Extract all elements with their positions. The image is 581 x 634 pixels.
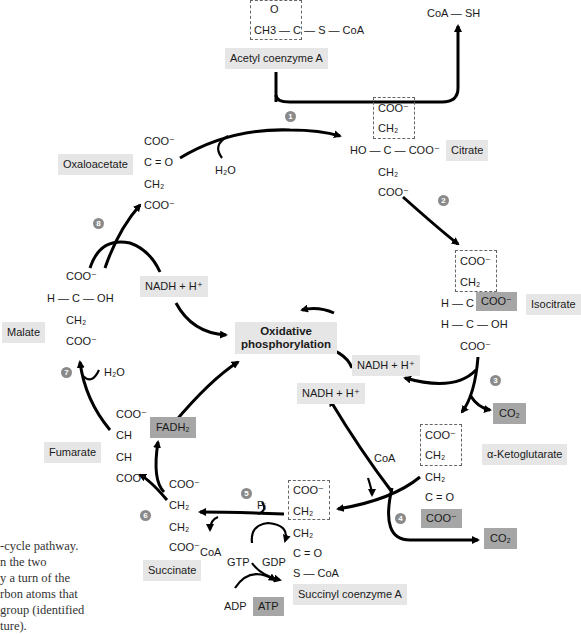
label-isocitrate: Isocitrate bbox=[526, 294, 581, 315]
label-alpha-ketoglutarate: α-Ketoglutarate bbox=[482, 444, 567, 465]
arrow-step1 bbox=[180, 130, 340, 158]
label-fumarate: Fumarate bbox=[44, 442, 101, 463]
arrow-h2o-malate bbox=[83, 370, 99, 379]
fumarate-line-2: CH bbox=[116, 429, 132, 442]
figure-caption: -cycle pathway. n the two y a turn of th… bbox=[0, 538, 84, 634]
succinate-line-2: CH₂ bbox=[169, 499, 189, 512]
arrow-step2 bbox=[403, 197, 458, 244]
akg-line-1: COO⁻ bbox=[425, 429, 456, 442]
akg-line-3: CH₂ bbox=[425, 471, 445, 484]
arrow-nadh-malate-ox bbox=[176, 303, 226, 335]
label-malate: Malate bbox=[2, 322, 45, 343]
label-citrate: Citrate bbox=[446, 140, 488, 161]
akg-line-4: C = O bbox=[425, 491, 454, 504]
succinyl-line-2: CH₂ bbox=[293, 505, 313, 518]
adp-label: ADP bbox=[224, 600, 247, 613]
succinate-line-4: COO⁻ bbox=[169, 541, 200, 554]
acetyl-coa-formula: CH3 — C — S — CoA bbox=[254, 24, 364, 37]
caption-line: n the two bbox=[0, 554, 84, 570]
acetyl-coa-oxygen: O bbox=[270, 3, 279, 16]
co2-isocitrate: CO₂ bbox=[493, 403, 526, 424]
gdp-label: GDP bbox=[262, 556, 286, 569]
label-succinyl-coa: Succinyl coenzyme A bbox=[293, 584, 407, 605]
isocitrate-line-5: H — C — OH bbox=[441, 318, 508, 331]
nadh-malate: NADH + H⁺ bbox=[140, 276, 208, 297]
caption-line: ture). bbox=[0, 618, 84, 634]
gtp-label: GTP bbox=[227, 556, 250, 569]
succinyl-line-3: CH₂ bbox=[293, 527, 313, 540]
arrow-gtp-gdp bbox=[252, 523, 286, 543]
step-3-marker: 3 bbox=[490, 375, 501, 386]
succinate-line-3: CH₂ bbox=[169, 521, 189, 534]
nadh-akg: NADH + H⁺ bbox=[297, 383, 365, 404]
oxaloacetate-line-3: CH₂ bbox=[144, 178, 164, 191]
oxidative-phosphorylation: Oxidative phosphorylation bbox=[235, 322, 337, 354]
step-6-marker: 6 bbox=[140, 510, 151, 521]
malate-line-4: COO⁻ bbox=[66, 335, 97, 348]
fumarate-line-3: CH bbox=[116, 451, 132, 464]
oxphos-line-2: phosphorylation bbox=[241, 338, 331, 351]
arrow-co2-iso bbox=[470, 395, 490, 410]
isocitrate-line-1: COO⁻ bbox=[460, 255, 491, 268]
malate-line-2: H — C — OH bbox=[47, 292, 114, 305]
step-2-marker: 2 bbox=[438, 195, 449, 206]
caption-line: rbon atoms that bbox=[0, 586, 84, 602]
step-8-marker: 8 bbox=[93, 218, 104, 229]
succinate-line-1: COO⁻ bbox=[169, 478, 200, 491]
arrow-nadh-iso-up bbox=[302, 309, 334, 313]
coa-akg: CoA bbox=[374, 452, 395, 465]
coa-succinyl: CoA bbox=[200, 546, 221, 559]
label-succinate: Succinate bbox=[143, 560, 201, 581]
arrow-fadh2 bbox=[156, 442, 164, 492]
arrow-step4 bbox=[338, 477, 420, 509]
succinyl-line-4: C = O bbox=[293, 547, 322, 560]
citrate-line-2: CH₂ bbox=[378, 122, 398, 135]
caption-line: y a turn of the bbox=[0, 570, 84, 586]
arrow-step5 bbox=[200, 512, 284, 514]
step-7-marker: 7 bbox=[61, 367, 72, 378]
arrow-nadh-malate bbox=[90, 242, 160, 272]
citrate-line-3: HO — C — COO⁻ bbox=[350, 144, 440, 157]
succinyl-line-5: S — CoA bbox=[293, 567, 339, 580]
citrate-line-5: COO⁻ bbox=[378, 186, 409, 199]
coa-sh-label: CoA — SH bbox=[427, 7, 480, 20]
caption-line: group (identified bbox=[0, 602, 84, 618]
citrate-line-4: CH₂ bbox=[378, 166, 398, 179]
fadh2-label: FADH₂ bbox=[150, 417, 196, 438]
nadh-isocitrate: NADH + H⁺ bbox=[352, 355, 420, 376]
malate-line-1: COO⁻ bbox=[66, 270, 97, 283]
co2-akg: CO₂ bbox=[484, 528, 517, 549]
fumarate-line-4: COO⁻ bbox=[116, 472, 147, 485]
akg-line-2: CH₂ bbox=[425, 449, 445, 462]
caption-line: -cycle pathway. bbox=[0, 538, 84, 554]
label-oxaloacetate: Oxaloacetate bbox=[58, 154, 133, 175]
arrow-nadh-akg bbox=[330, 400, 392, 492]
oxaloacetate-line-4: COO⁻ bbox=[144, 199, 175, 212]
akg-highlight-coo: COO⁻ bbox=[421, 509, 462, 528]
succinyl-line-1: COO⁻ bbox=[293, 484, 324, 497]
step-1-marker: 1 bbox=[285, 111, 296, 122]
isocitrate-line-6: COO⁻ bbox=[460, 340, 491, 353]
pi-label: Pᵢ bbox=[257, 499, 266, 512]
arrow-fadh2-ox bbox=[174, 362, 238, 423]
arrow-step8 bbox=[105, 205, 140, 268]
atp-label: ATP bbox=[253, 597, 284, 616]
malate-line-3: CH₂ bbox=[66, 314, 86, 327]
arrow-coa-succ bbox=[210, 517, 218, 530]
oxaloacetate-line-2: C = O bbox=[144, 156, 173, 169]
arrow-coa-akg bbox=[368, 478, 372, 495]
isocitrate-highlight-coo: COO⁻ bbox=[476, 292, 517, 311]
h2o-top: H₂O bbox=[215, 164, 236, 177]
oxphos-line-1: Oxidative bbox=[241, 325, 331, 338]
step-4-marker: 4 bbox=[395, 513, 406, 524]
label-acetyl-coa: Acetyl coenzyme A bbox=[225, 48, 328, 69]
citrate-line-1: COO⁻ bbox=[378, 102, 409, 115]
oxaloacetate-line-1: COO⁻ bbox=[144, 135, 175, 148]
step-5-marker: 5 bbox=[241, 488, 252, 499]
h2o-malate: H₂O bbox=[104, 366, 125, 379]
isocitrate-line-2: CH₂ bbox=[460, 276, 480, 289]
fumarate-line-1: COO⁻ bbox=[116, 408, 147, 421]
